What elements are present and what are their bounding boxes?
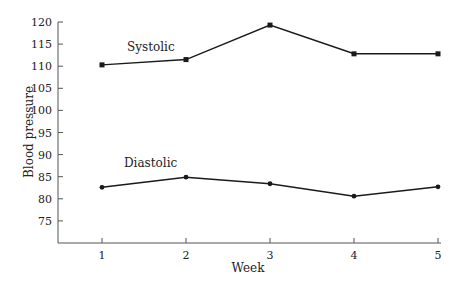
- y-tick-label: 95: [38, 127, 52, 140]
- y-axis-label: Blood pressure: [22, 86, 36, 178]
- x-axis-label: Week: [232, 261, 266, 275]
- y-tick-label: 80: [38, 193, 52, 206]
- systolic-marker: [268, 23, 273, 28]
- diastolic-marker: [268, 181, 273, 186]
- systolic-marker: [100, 62, 105, 67]
- y-tick-label: 75: [38, 215, 52, 228]
- systolic-marker: [436, 51, 441, 56]
- chart-canvas: 758085909510010511011512012345 Blood pre…: [0, 0, 465, 285]
- x-tick-label: 5: [435, 249, 442, 262]
- axes: 758085909510010511011512012345: [31, 16, 442, 262]
- diastolic-line: [102, 177, 438, 196]
- diastolic-marker: [100, 185, 105, 190]
- diastolic-marker: [436, 184, 441, 189]
- y-tick-label: 85: [38, 171, 52, 184]
- y-tick-label: 90: [38, 149, 52, 162]
- x-tick-label: 1: [99, 249, 106, 262]
- diastolic-marker: [184, 175, 189, 180]
- systolic-series-label: Systolic: [127, 40, 175, 54]
- y-tick-label: 115: [31, 38, 52, 51]
- blood-pressure-chart: 758085909510010511011512012345 Blood pre…: [0, 0, 465, 285]
- y-tick-label: 120: [31, 16, 52, 29]
- systolic-marker: [352, 51, 357, 56]
- diastolic-marker: [352, 194, 357, 199]
- systolic-marker: [184, 57, 189, 62]
- x-tick-label: 3: [267, 249, 274, 262]
- x-tick-label: 2: [183, 249, 190, 262]
- diastolic-series-label: Diastolic: [124, 156, 177, 170]
- x-tick-label: 4: [351, 249, 358, 262]
- y-tick-label: 110: [31, 60, 52, 73]
